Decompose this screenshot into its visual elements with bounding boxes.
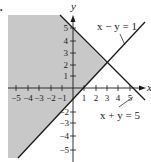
svg-text:1: 1: [64, 71, 69, 81]
svg-text:3: 3: [105, 93, 110, 103]
svg-text:−4: −4: [23, 93, 33, 103]
svg-text:5: 5: [64, 23, 69, 33]
label-x-plus-y-eq-5: x + y = 5: [100, 109, 140, 121]
label-x-minus-y-eq-1: x − y = 1: [97, 20, 137, 32]
svg-text:−5: −5: [11, 93, 21, 103]
svg-text:4: 4: [64, 36, 69, 46]
svg-text:−3: −3: [59, 118, 69, 128]
svg-text:2: 2: [64, 60, 69, 70]
svg-text:−2: −2: [59, 107, 69, 117]
x-axis-label: x: [146, 81, 151, 93]
inequality-graph: −5 −4 −3 −2 −1 1 2 3 4 5 5 4 3 2 1 −2 −3…: [0, 0, 151, 162]
svg-text:4: 4: [116, 93, 121, 103]
svg-text:2: 2: [94, 93, 99, 103]
x-axis-arrow-icon: [139, 86, 146, 91]
shaded-region: [8, 15, 107, 158]
svg-text:−2: −2: [46, 93, 56, 103]
y-axis-arrow-icon: [71, 15, 76, 22]
svg-text:5: 5: [128, 93, 133, 103]
svg-text:1: 1: [82, 93, 87, 103]
svg-text:−1: −1: [57, 93, 67, 103]
leader-x-minus-y: [120, 34, 125, 45]
figure-marker: •: [0, 6, 3, 13]
svg-text:−3: −3: [34, 93, 44, 103]
y-axis-label: y: [70, 0, 76, 12]
svg-text:−4: −4: [59, 131, 69, 141]
svg-text:3: 3: [64, 48, 69, 58]
svg-text:−5: −5: [59, 145, 69, 155]
